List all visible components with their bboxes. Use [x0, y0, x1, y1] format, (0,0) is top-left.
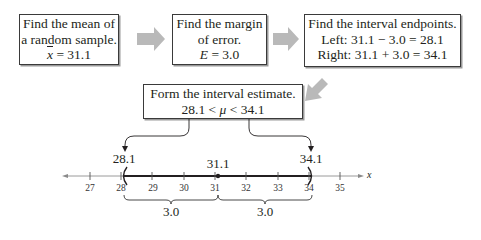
- tick-label: 28: [116, 183, 126, 193]
- left-connector: [125, 119, 189, 148]
- tick-label: 30: [179, 183, 189, 193]
- tick-label: 32: [241, 183, 251, 193]
- tick-label: 33: [273, 183, 283, 193]
- left-brace: [124, 195, 218, 204]
- center-label: 31.1: [207, 156, 230, 172]
- right-brace-label: 3.0: [257, 204, 273, 220]
- arrow-right-icon: [137, 27, 165, 51]
- right-brace: [218, 195, 312, 204]
- block-arrows: [137, 27, 328, 101]
- arrow-right-icon: [273, 27, 299, 51]
- tick-label: 35: [335, 183, 345, 193]
- arrow-down-left-icon: [305, 78, 328, 101]
- tick-label: 27: [85, 183, 95, 193]
- left-endpoint-label: 28.1: [113, 151, 136, 167]
- left-brace-label: 3.0: [163, 204, 179, 220]
- tick-label: 31: [210, 183, 220, 193]
- tick-label: 34: [304, 183, 314, 193]
- center-point: [216, 174, 220, 178]
- tick-label: 29: [148, 183, 158, 193]
- axis-label: x: [367, 169, 371, 180]
- right-endpoint-label: 34.1: [300, 151, 323, 167]
- right-connector: [249, 119, 311, 148]
